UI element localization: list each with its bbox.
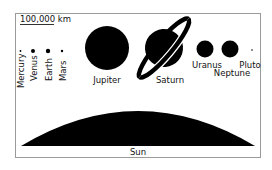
jupiter-body — [85, 26, 129, 70]
venus-label: Venus — [29, 55, 39, 81]
earth-label: Earth — [44, 58, 54, 81]
uranus-body — [197, 41, 214, 58]
mars-body — [61, 50, 63, 52]
neptune-body — [222, 41, 239, 58]
pluto-body — [251, 49, 253, 51]
scale-bar-label: 100,000 km — [20, 14, 71, 24]
jupiter-label: Jupiter — [92, 75, 121, 85]
earth-body — [46, 49, 50, 53]
mars-label: Mars — [58, 60, 68, 81]
mercury-label: Mercury — [16, 54, 26, 88]
venus-body — [31, 49, 35, 53]
planet-size-diagram: 100,000 km Mercury Venus Earth Mars Jupi… — [0, 0, 272, 170]
scale-bar: 100,000 km — [20, 14, 71, 25]
sun-label: Sun — [130, 147, 146, 157]
mercury-body — [20, 50, 22, 52]
saturn-label: Saturn — [156, 75, 184, 85]
pluto-label: Pluto — [239, 60, 260, 70]
